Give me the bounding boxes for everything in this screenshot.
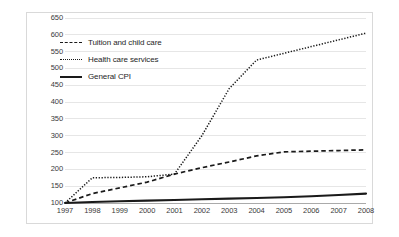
legend-label: Tuition and child care: [88, 38, 162, 48]
dotted-line-icon: [60, 55, 82, 65]
y-axis-tick-label: 500: [29, 64, 63, 72]
x-axis-tick-label: 2005: [276, 206, 292, 215]
x-axis-tick-label: 1998: [84, 206, 100, 215]
chart-screenshot: 100150200250300350400450500550600650 199…: [0, 0, 399, 237]
y-axis-tick-label: 300: [29, 132, 63, 140]
y-axis-tick-label: 400: [29, 98, 63, 106]
x-axis-tick-label: 1999: [112, 206, 128, 215]
chart-legend: Tuition and child care Health care servi…: [60, 34, 230, 85]
y-axis-tick-label: 350: [29, 115, 63, 123]
x-axis-tick-labels: 1997199819992000200120022003200420052006…: [65, 206, 366, 218]
y-axis-tick-label: 250: [29, 149, 63, 157]
y-axis-tick-label: 650: [29, 14, 63, 22]
y-axis-tick-label: 600: [29, 31, 63, 39]
x-axis-tick-label: 2001: [166, 206, 182, 215]
y-axis-tick-labels: 100150200250300350400450500550600650: [27, 18, 63, 203]
y-axis-tick-label: 450: [29, 81, 63, 89]
x-axis-tick-label: 2004: [248, 206, 264, 215]
y-axis-tick-label: 200: [29, 165, 63, 173]
y-axis-tick-label: 550: [29, 48, 63, 56]
x-axis-tick-label: 1997: [57, 206, 73, 215]
series-line-general-cpi: [65, 194, 366, 203]
x-axis-tick-label: 2002: [194, 206, 210, 215]
y-axis-tick-label: 150: [29, 182, 63, 190]
x-axis-tick-label: 2007: [330, 206, 346, 215]
x-axis-tick-label: 2008: [358, 206, 374, 215]
legend-label: General CPI: [88, 72, 131, 82]
solid-line-icon: [60, 72, 82, 82]
legend-item-health-care-services: Health care services: [60, 51, 230, 68]
legend-item-tuition-and-child-care: Tuition and child care: [60, 34, 230, 51]
x-axis-tick-label: 2000: [139, 206, 155, 215]
dashed-line-icon: [60, 38, 82, 48]
legend-item-general-cpi: General CPI: [60, 68, 230, 85]
x-axis-tick-label: 2006: [303, 206, 319, 215]
legend-label: Health care services: [88, 55, 158, 65]
x-axis-tick-label: 2003: [221, 206, 237, 215]
